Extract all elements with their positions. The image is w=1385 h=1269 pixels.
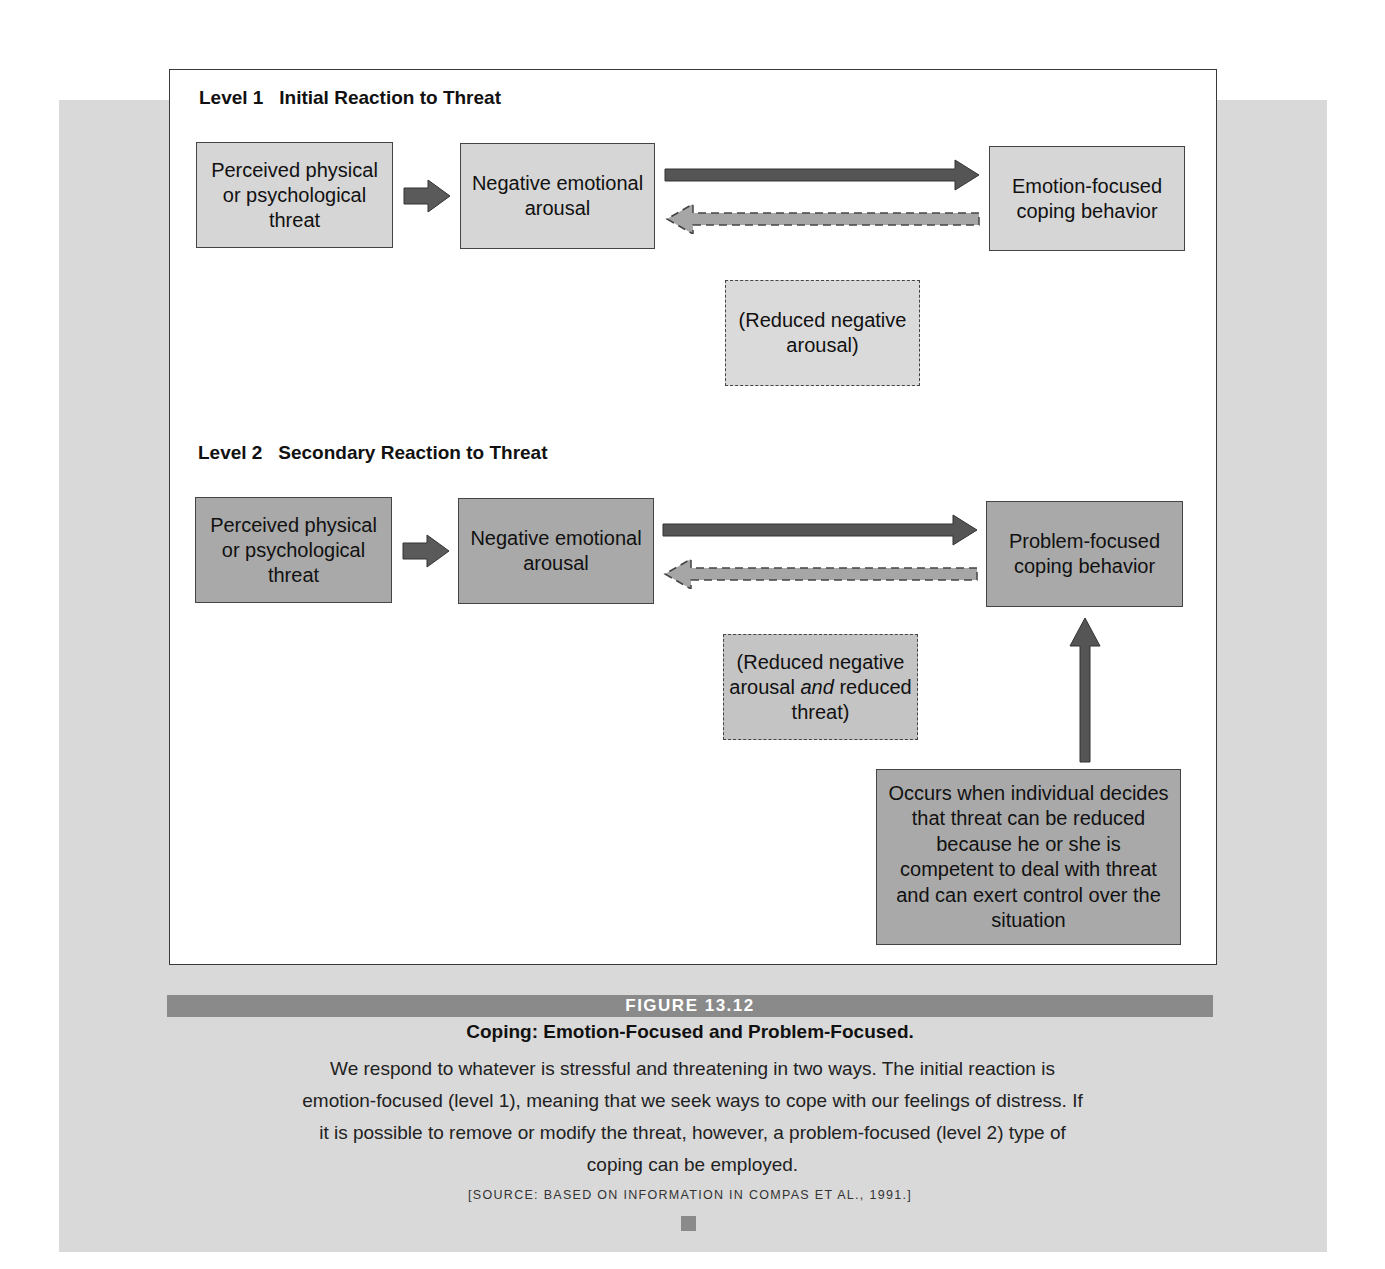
level2-outcome-text: (Reduced negative arousal and reduced th… [728,650,913,725]
level2-outcome-italic: and [800,676,833,698]
end-marker-icon [681,1216,696,1231]
level2-arousal-box: Negative emotional arousal [458,498,654,604]
level1-arousal-text: Negative emotional arousal [465,171,650,221]
level2-problem-coping-box: Problem-focused coping behavior [986,501,1183,607]
level2-coping-text: Problem-focused coping behavior [991,529,1178,579]
figure-number-bar: FIGURE 13.12 [167,995,1213,1017]
level1-outcome-box: (Reduced negative arousal) [725,280,920,386]
level2-threat-to-arousal-arrow-icon [401,533,451,569]
level2-title: Level 2 Secondary Reaction to Threat [198,442,548,464]
level2-threat-text: Perceived physical or psychological thre… [200,513,387,588]
level1-arousal-box: Negative emotional arousal [460,143,655,249]
level1-title: Level 1 Initial Reaction to Threat [199,87,501,109]
level2-arrows-icon [661,513,981,589]
figure-description: We respond to whatever is stressful and … [300,1053,1085,1181]
level1-outcome-text: (Reduced negative arousal) [730,308,915,358]
level2-threat-box: Perceived physical or psychological thre… [195,497,392,603]
level2-outcome-box: (Reduced negative arousal and reduced th… [723,634,918,740]
level1-threat-to-arousal-arrow-icon [402,178,452,214]
level1-threat-box: Perceived physical or psychological thre… [196,142,393,248]
level2-condition-up-arrow-icon [1068,616,1102,764]
level2-arousal-text: Negative emotional arousal [463,526,649,576]
level1-coping-text: Emotion-focused coping behavior [994,174,1180,224]
level1-threat-text: Perceived physical or psychological thre… [201,158,388,233]
level2-condition-text: Occurs when individual decides that thre… [887,781,1170,934]
level1-arrows-icon [663,158,983,234]
level1-emotion-coping-box: Emotion-focused coping behavior [989,146,1185,251]
figure-source: [SOURCE: BASED ON INFORMATION IN COMPAS … [167,1188,1213,1202]
figure-title: Coping: Emotion-Focused and Problem-Focu… [167,1021,1213,1043]
level2-condition-box: Occurs when individual decides that thre… [876,769,1181,945]
